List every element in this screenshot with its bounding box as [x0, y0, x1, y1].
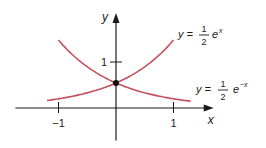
eq-denominator: 2: [201, 37, 206, 47]
eq-prefix: y =: [177, 28, 194, 40]
eq-exponent: x: [218, 27, 223, 34]
equation-label-exp-neg-x: y = 1 2 e −x: [195, 79, 248, 102]
eq-denominator: 2: [220, 92, 225, 102]
chart: −111 x y y = 1 2 e x y = 1 2 e −x: [0, 0, 266, 148]
y-tick-label: 1: [101, 56, 107, 68]
eq-numerator: 1: [220, 79, 225, 89]
x-tick-label: −1: [52, 117, 65, 129]
plot-area: −111 x y y = 1 2 e x y = 1 2 e −x: [0, 0, 266, 148]
y-axis-arrow-icon: [113, 13, 120, 23]
eq-base: e: [212, 28, 218, 40]
x-axis-arrow-icon: [204, 105, 214, 112]
eq-numerator: 1: [201, 24, 206, 34]
x-axis-label: x: [207, 113, 215, 127]
y-axis-label: y: [101, 10, 109, 24]
axis-ticks: −111: [52, 56, 176, 129]
eq-exponent: −x: [240, 81, 248, 88]
eq-base: e: [233, 83, 239, 95]
equation-label-exp-x: y = 1 2 e x: [177, 24, 223, 47]
curve-half-exp-neg-x: [59, 40, 191, 101]
x-tick-label: 1: [170, 117, 176, 129]
eq-prefix: y =: [195, 83, 212, 95]
intersection-point: [113, 80, 119, 86]
